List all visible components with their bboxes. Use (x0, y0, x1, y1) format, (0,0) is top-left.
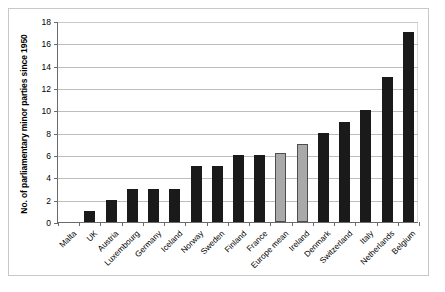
x-axis-labels: MaltaUKAustriaLuxembourgGermanyIcelandNo… (57, 223, 418, 283)
y-axis-tick-label: 16 (42, 39, 51, 49)
bar[interactable] (403, 32, 414, 222)
y-axis-tick-label: 6 (46, 151, 51, 161)
bar[interactable] (382, 77, 393, 222)
bar[interactable] (254, 155, 265, 222)
x-axis-tick-label: UK (85, 229, 99, 243)
bar[interactable] (297, 144, 308, 222)
bar[interactable] (318, 133, 329, 222)
bar[interactable] (127, 189, 138, 223)
bar[interactable] (212, 166, 223, 222)
bar[interactable] (191, 166, 202, 222)
x-axis-tick-label: Finland (223, 229, 248, 254)
bar[interactable] (233, 155, 244, 222)
bar[interactable] (106, 200, 117, 222)
bar[interactable] (84, 211, 95, 222)
y-axis-title-text: No. of parliamentary minor parties since… (19, 34, 29, 213)
bar[interactable] (169, 189, 180, 223)
y-axis-tick-label: 4 (46, 173, 51, 183)
x-axis-tick-label: Malta (57, 229, 78, 250)
y-axis-tick-label: 10 (42, 106, 51, 116)
y-axis-title: No. of parliamentary minor parties since… (15, 19, 33, 229)
y-axis-tick-label: 18 (42, 17, 51, 27)
bar[interactable] (148, 189, 159, 223)
bar-series (58, 22, 418, 222)
bar[interactable] (360, 110, 371, 222)
x-axis-tick-label: Italy (358, 229, 375, 246)
bar[interactable] (275, 153, 286, 222)
bar[interactable] (339, 122, 350, 223)
y-axis-tick-label: 8 (46, 129, 51, 139)
y-axis-tick-label: 2 (46, 196, 51, 206)
y-axis-tick-label: 12 (42, 84, 51, 94)
plot-area: 024681012141618 (57, 22, 418, 223)
x-axis-tick (419, 222, 420, 226)
chart-figure: No. of parliamentary minor parties since… (8, 8, 429, 276)
y-axis-tick-label: 0 (46, 218, 51, 228)
y-axis-tick-label: 14 (42, 62, 51, 72)
